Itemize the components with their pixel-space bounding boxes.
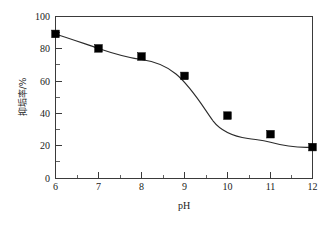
x-tick-label: 6 [53,181,58,192]
scale-inhibition-vs-ph-chart: 6 7 8 9 10 11 12 0 20 40 60 80 100 pH 抑垢… [0,0,333,225]
data-point-ph-11 [267,130,275,138]
data-point-ph-6 [52,30,60,38]
figure-container: 6 7 8 9 10 11 12 0 20 40 60 80 100 pH 抑垢… [0,0,333,225]
x-tick-label: 12 [308,181,318,192]
y-tick-label: 60 [40,76,50,87]
x-tick-label: 7 [96,181,101,192]
data-point-ph-12 [309,143,317,151]
data-point-ph-7 [95,45,103,53]
x-tick-label: 9 [182,181,187,192]
x-axis-title: pH [178,200,190,211]
x-tick-label: 8 [139,181,144,192]
data-point-ph-8 [138,53,146,61]
data-point-ph-9 [181,72,189,80]
y-axis-title: 抑垢率/% [17,77,28,116]
y-tick-label: 40 [40,108,50,119]
data-point-ph-10 [224,112,232,120]
y-tick-label: 80 [40,43,50,54]
x-tick-label: 11 [266,181,276,192]
x-tick-label: 10 [223,181,233,192]
y-tick-label: 0 [45,173,50,184]
y-tick-label: 20 [40,140,50,151]
y-tick-label: 100 [35,11,50,22]
